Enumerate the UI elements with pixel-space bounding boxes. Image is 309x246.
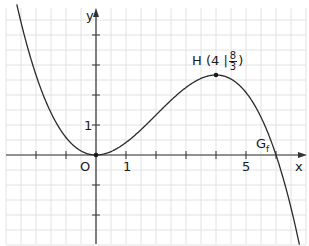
curve-label-sub: f	[266, 144, 269, 154]
point-h-fraction: 83	[229, 51, 237, 72]
function-graph	[0, 0, 309, 246]
grid	[6, 8, 306, 245]
origin-label: O	[80, 160, 90, 173]
maximum-point-h	[214, 73, 219, 78]
x-tick-label-5: 5	[242, 160, 250, 173]
x-axis-label: x	[295, 160, 303, 173]
curve-label-gf: Gf	[256, 137, 269, 154]
y-axis-label: y	[86, 9, 94, 22]
origin-point	[94, 153, 99, 158]
curve-label-main: G	[256, 136, 266, 151]
point-h-suffix: )	[238, 53, 243, 68]
y-tick-label-1: 1	[84, 119, 92, 132]
point-h-label: H (4 |83)	[192, 51, 243, 72]
x-tick-label-1: 1	[123, 160, 131, 173]
fraction-denominator: 3	[229, 62, 237, 72]
point-h-prefix: H (4 |	[192, 53, 228, 68]
